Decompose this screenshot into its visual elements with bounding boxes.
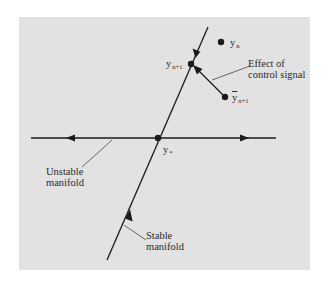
label-yn-top: yn <box>230 37 240 51</box>
label-stable-manifold: Stable manifold <box>146 230 184 252</box>
fixed-point-dot <box>155 135 161 141</box>
left-arrow-icon <box>66 135 75 142</box>
label-yn1: yn+1 <box>166 58 182 72</box>
label-control-effect: Effect of control signal <box>248 58 305 80</box>
right-arrow-icon <box>240 135 249 142</box>
yn-top-dot <box>218 39 224 45</box>
stable-leader-line <box>124 225 146 240</box>
down-arrow-icon <box>193 49 201 59</box>
unstable-leader-line <box>82 140 112 167</box>
label-fixed-point: y* <box>163 144 173 158</box>
label-unstable-manifold: Unstable manifold <box>46 166 84 188</box>
yn1-dot <box>188 61 194 67</box>
control-arrow-line <box>198 70 225 97</box>
label-ybar-n1: yn+1 <box>232 92 248 106</box>
control-leader-line <box>212 66 250 80</box>
